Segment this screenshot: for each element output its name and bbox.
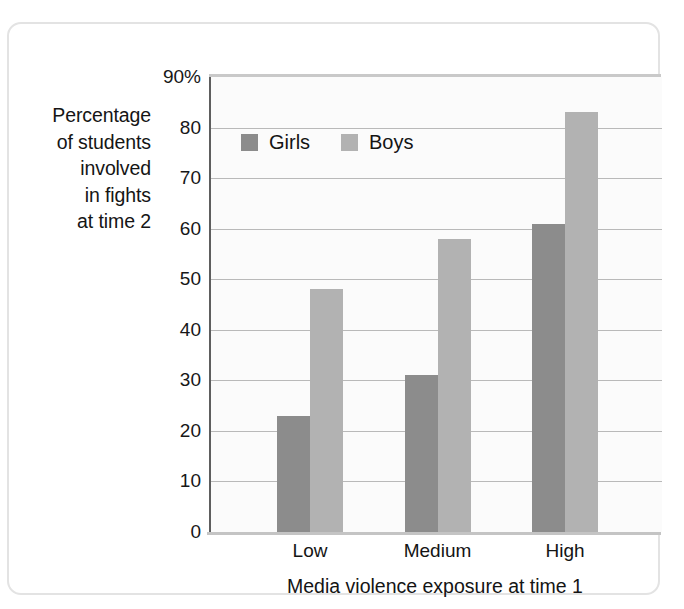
x-axis-title: Media violence exposure at time 1 [205, 575, 665, 598]
legend-swatch-girls-icon [241, 134, 258, 151]
legend-label-boys: Boys [369, 131, 413, 154]
bar-boys-medium[interactable] [438, 239, 471, 532]
y-tick-label-70: 70 [145, 167, 201, 189]
bar-girls-low[interactable] [277, 416, 310, 532]
bar-boys-low[interactable] [310, 289, 343, 532]
y-tick-label-10: 10 [145, 470, 201, 492]
legend-entry-boys[interactable]: Boys [341, 130, 413, 154]
y-tick-label-30: 30 [145, 369, 201, 391]
legend-swatch-boys-icon [341, 134, 358, 151]
bar-girls-medium[interactable] [405, 375, 438, 532]
y-tick-label-50: 50 [145, 268, 201, 290]
y-axis-title-line-2: of students [19, 129, 151, 156]
y-tick-label-40: 40 [145, 319, 201, 341]
y-tick-label-60: 60 [145, 218, 201, 240]
y-axis-title: Percentage of students involved in fight… [19, 102, 151, 235]
y-tick-label-80: 80 [145, 117, 201, 139]
y-axis-title-line-4: in fights [19, 182, 151, 209]
y-axis-title-line-3: involved [19, 155, 151, 182]
x-tick-label-high: High [485, 540, 645, 562]
legend-label-girls: Girls [269, 131, 310, 154]
chart-card: Percentage of students involved in fight… [7, 22, 660, 595]
x-axis-baseline [207, 532, 661, 535]
bar-girls-high[interactable] [532, 224, 565, 532]
y-tick-label-90: 90% [145, 66, 201, 88]
legend-entry-girls[interactable]: Girls [241, 130, 310, 154]
y-axis-title-line-5: at time 2 [19, 208, 151, 235]
y-axis-title-line-1: Percentage [19, 102, 151, 129]
y-tick-label-20: 20 [145, 420, 201, 442]
y-axis-tick-labels: 0102030405060708090% [141, 77, 201, 532]
y-tick-label-0: 0 [145, 521, 201, 543]
bar-boys-high[interactable] [565, 112, 598, 532]
